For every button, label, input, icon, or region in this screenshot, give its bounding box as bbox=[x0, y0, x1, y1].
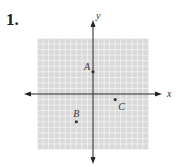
x-axis-right-arrow-icon bbox=[155, 92, 162, 97]
x-axis-label: x bbox=[166, 88, 172, 99]
coordinate-plane: xyABC bbox=[0, 0, 180, 167]
point-b bbox=[75, 120, 78, 123]
point-c bbox=[114, 98, 117, 101]
point-label-b: B bbox=[73, 108, 79, 119]
y-axis-label: y bbox=[95, 10, 101, 21]
y-axis-down-arrow-icon bbox=[91, 157, 96, 164]
point-label-a: A bbox=[83, 61, 91, 72]
x-axis-left-arrow-icon bbox=[24, 92, 31, 97]
point-a bbox=[91, 70, 94, 73]
point-label-c: C bbox=[118, 101, 125, 112]
y-axis-up-arrow-icon bbox=[91, 20, 96, 27]
